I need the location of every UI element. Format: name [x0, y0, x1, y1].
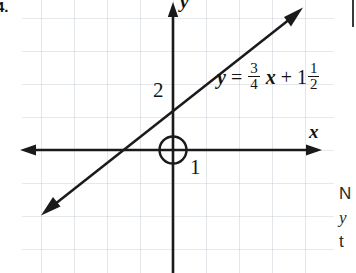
equation-intercept-mixed-number: 1 1 2 — [297, 61, 321, 93]
intercept-whole-part: 1 — [297, 67, 307, 87]
intercept-numerator: 1 — [308, 61, 320, 76]
figure-page: 4. 2 1 x y y = 3 4 x + 1 1 2 N y t — [0, 0, 356, 273]
y-axis-label: y — [180, 0, 188, 11]
margin-body-text: N y t — [339, 182, 351, 254]
x-axis-label: x — [309, 122, 319, 141]
x-axis-tick-label-1: 1 — [190, 157, 201, 178]
coordinate-graph — [0, 0, 356, 273]
equation-variable: x — [266, 67, 276, 87]
margin-text-line-2: y — [339, 206, 351, 230]
line-equation: y = 3 4 x + 1 1 2 — [217, 61, 320, 93]
intercept-denominator: 2 — [308, 76, 320, 92]
margin-rule-mark — [352, 0, 354, 27]
slope-numerator: 3 — [248, 61, 260, 76]
margin-text-line-1: N — [339, 182, 351, 206]
equation-plus-sign: + — [281, 67, 292, 87]
equation-slope-fraction: 3 4 — [248, 61, 260, 93]
equation-equals-sign: = — [231, 67, 242, 87]
intercept-fraction: 1 2 — [308, 61, 320, 93]
slope-denominator: 4 — [248, 76, 260, 92]
margin-text-line-3: t — [339, 230, 351, 254]
equation-lhs: y — [217, 67, 226, 87]
y-axis-tick-label-2: 2 — [153, 80, 164, 101]
problem-number: 4. — [0, 0, 9, 14]
